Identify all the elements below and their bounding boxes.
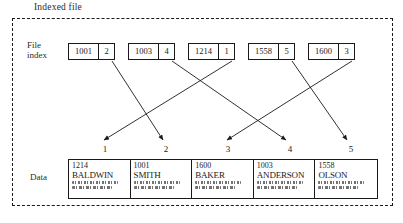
record-id: 1003 [257, 161, 315, 170]
data-record[interactable]: 1214 BALDWIN [69, 160, 131, 198]
index-entry-key: 1001 [69, 44, 99, 59]
data-record-strip: 1214 BALDWIN 1001 SMITH 1600 BAKER 1003 … [68, 159, 378, 199]
record-detail-line [134, 181, 180, 184]
data-record[interactable]: 1600 BAKER [192, 160, 254, 198]
record-id: 1001 [134, 161, 192, 170]
index-entry[interactable]: 1558 5 [248, 43, 295, 60]
record-detail-line [72, 186, 112, 189]
record-detail-line [318, 186, 358, 189]
record-detail-line [318, 181, 364, 184]
data-record[interactable]: 1003 ANDERSON [254, 160, 316, 198]
slot-number: 3 [223, 144, 233, 154]
record-id: 1600 [195, 161, 253, 170]
record-detail-line [195, 181, 241, 184]
slot-number: 2 [161, 144, 171, 154]
record-name: ANDERSON [257, 170, 315, 180]
record-id: 1558 [318, 161, 377, 170]
record-name: BAKER [195, 170, 253, 180]
figure-canvas: Indexed file File index Data 1001 2 1003… [0, 0, 403, 223]
slot-number: 1 [100, 144, 110, 154]
index-entry-pointer: 2 [99, 44, 114, 59]
index-entry-key: 1600 [309, 44, 339, 59]
record-detail-line [72, 181, 118, 184]
record-detail-line [134, 186, 174, 189]
record-id: 1214 [72, 161, 130, 170]
record-detail-line [257, 186, 297, 189]
record-detail-line [195, 186, 235, 189]
index-entry[interactable]: 1003 4 [128, 43, 175, 60]
index-entry-key: 1214 [189, 44, 219, 59]
index-entry-pointer: 3 [339, 44, 354, 59]
record-detail-line [257, 181, 303, 184]
index-entry-pointer: 1 [219, 44, 234, 59]
index-entry[interactable]: 1001 2 [68, 43, 115, 60]
index-entry[interactable]: 1600 3 [308, 43, 355, 60]
record-name: BALDWIN [72, 170, 130, 180]
record-name: SMITH [134, 170, 192, 180]
data-record[interactable]: 1558 OLSON [315, 160, 377, 198]
data-record[interactable]: 1001 SMITH [131, 160, 193, 198]
index-entry-pointer: 4 [159, 44, 174, 59]
index-entry-key: 1558 [249, 44, 279, 59]
index-entry[interactable]: 1214 1 [188, 43, 235, 60]
slot-number: 4 [285, 144, 295, 154]
record-name: OLSON [318, 170, 377, 180]
slot-number: 5 [346, 144, 356, 154]
index-entry-key: 1003 [129, 44, 159, 59]
index-entry-pointer: 5 [279, 44, 294, 59]
